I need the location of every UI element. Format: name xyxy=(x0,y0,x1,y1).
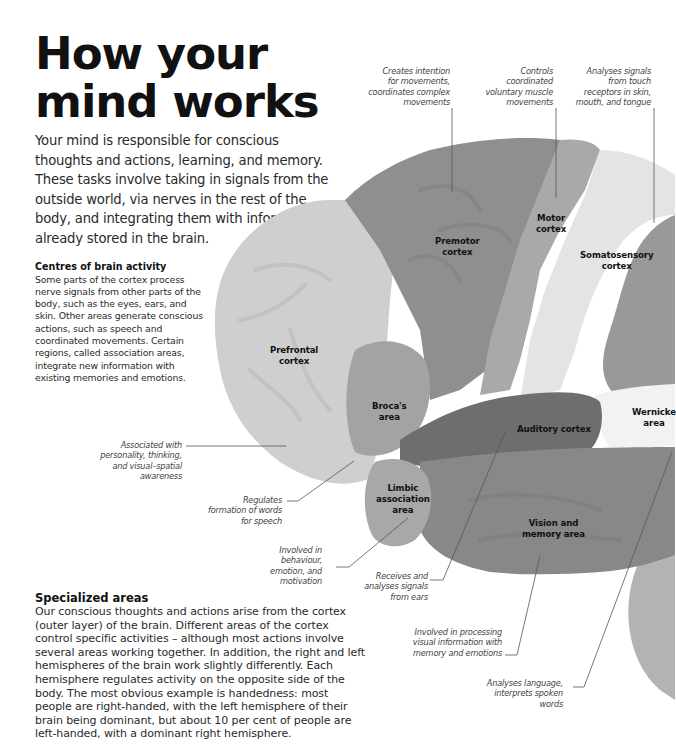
region-label-auditory: Auditory cortex xyxy=(517,424,591,435)
annotation-limbic: Involved in behaviour, emotion, and moti… xyxy=(270,545,322,586)
cerebellum-shape xyxy=(628,555,675,700)
vision-memory-region xyxy=(420,447,675,574)
region-label-vision-memory: Vision andmemory area xyxy=(522,518,585,540)
annotation-auditory: Receives and analyses signals from ears xyxy=(364,571,428,602)
annotation-somatosensory: Analyses signals from touch receptors in… xyxy=(576,66,651,107)
region-label-motor: Motorcortex xyxy=(536,213,566,235)
annotation-broca: Regulates formation of words for speech xyxy=(208,495,282,526)
annotation-wernicke: Analyses language, interprets spoken wor… xyxy=(487,678,563,709)
region-label-limbic: Limbicassociationarea xyxy=(376,483,430,515)
region-label-prefrontal: Prefrontalcortex xyxy=(270,345,318,367)
annotation-prefrontal: Associated with personality, thinking, a… xyxy=(100,440,182,481)
specialized-heading: Specialized areas xyxy=(35,591,365,605)
region-label-premotor: Premotorcortex xyxy=(435,236,480,258)
annotation-motor: Controls coordinated voluntary muscle mo… xyxy=(485,66,553,107)
annotation-premotor: Creates intention for movements, coordin… xyxy=(368,66,450,107)
region-label-somatosensory: Somatosensorycortex xyxy=(580,250,653,272)
region-label-wernicke: Wernickearea xyxy=(632,407,676,429)
specialized-section: Specialized areas Our conscious thoughts… xyxy=(35,591,365,741)
specialized-body: Our conscious thoughts and actions arise… xyxy=(35,605,365,741)
region-label-broca: Broca'sarea xyxy=(372,401,407,423)
annotation-vision: Involved in processing visual informatio… xyxy=(413,627,502,658)
